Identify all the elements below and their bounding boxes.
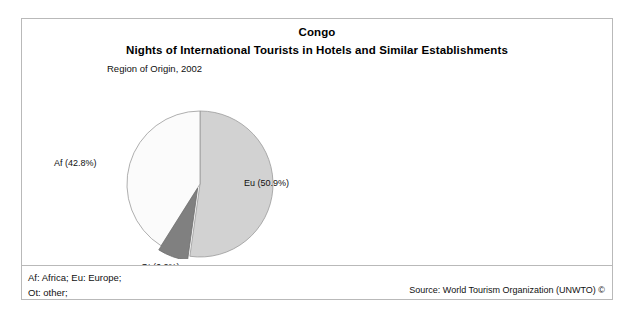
- chart-plot-area: Congo Nights of International Tourists i…: [22, 19, 612, 265]
- pie-label-af: Af (42.8%): [54, 158, 97, 169]
- source-note: Source: World Tourism Organization (UNWT…: [409, 284, 605, 296]
- chart-footer: Af: Africa; Eu: Europe; Ot: other; Sourc…: [22, 266, 612, 299]
- chart-figure: Congo Nights of International Tourists i…: [21, 18, 613, 300]
- footnote-abbreviations-line-1: Af: Africa; Eu: Europe;: [28, 272, 121, 284]
- footnote-abbreviations-line-2: Ot: other;: [28, 287, 68, 299]
- pie-chart-svg: [82, 79, 302, 259]
- pie-chart: Af (42.8%) Eu (50.9%) Ot (6.2%): [22, 19, 612, 265]
- pie-label-eu: Eu (50.9%): [244, 178, 289, 189]
